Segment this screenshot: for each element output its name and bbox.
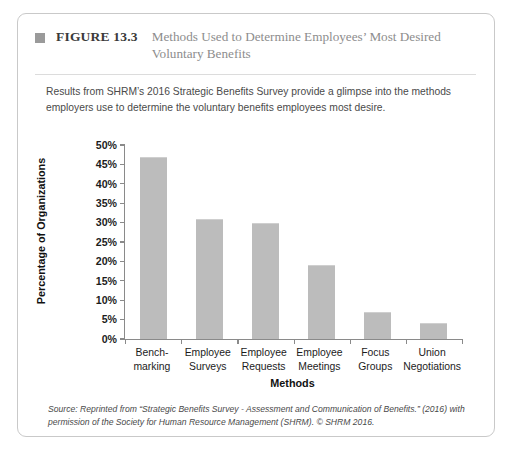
y-axis-tick-mark — [120, 203, 125, 204]
bar-slot — [350, 145, 406, 339]
x-axis-tick-label: EmployeeMeetings — [292, 346, 348, 373]
x-axis-tick-mark — [462, 339, 463, 344]
y-axis-tick-mark — [120, 261, 125, 262]
x-axis-tick-mark — [350, 339, 351, 344]
bar-slot — [181, 145, 237, 339]
figure-card: FIGURE 13.3 Methods Used to Determine Em… — [17, 13, 495, 437]
figure-label: FIGURE 13.3 — [56, 28, 138, 45]
figure-source-note: Source: Reprinted from “Strategic Benefi… — [48, 403, 472, 429]
y-axis-tick-mark — [120, 319, 125, 320]
bar-slot — [406, 145, 462, 339]
y-axis-tick-label: 20% — [96, 256, 117, 267]
x-axis-tick-label: UnionNegotiations — [403, 346, 461, 373]
x-axis-labels: Bench-markingEmployeeSurveysEmployeeRequ… — [124, 346, 461, 373]
y-axis-tick-label: 40% — [96, 179, 117, 190]
figure-subtitle: Results from SHRM’s 2016 Strategic Benef… — [46, 84, 476, 115]
header-divider — [35, 74, 476, 75]
x-axis-tick-label: EmployeeSurveys — [180, 346, 236, 373]
x-axis-tick-label: FocusGroups — [347, 346, 403, 373]
y-axis-tick-label: 35% — [96, 198, 117, 209]
x-axis-tick-label: Bench-marking — [124, 346, 180, 373]
bar — [140, 157, 167, 339]
x-axis-tick-mark — [237, 339, 238, 344]
y-axis-tick-mark — [120, 300, 125, 301]
square-marker-icon — [35, 33, 45, 43]
y-axis-tick-mark — [120, 164, 125, 165]
x-axis-title: Methods — [124, 377, 461, 389]
bar — [196, 219, 223, 339]
x-axis-tick-mark — [294, 339, 295, 344]
figure-header: FIGURE 13.3 Methods Used to Determine Em… — [35, 28, 476, 62]
y-axis-tick-label: 0% — [102, 334, 117, 345]
bar — [364, 312, 391, 339]
figure-title: Methods Used to Determine Employees’ Mos… — [152, 28, 448, 62]
x-axis-tick-mark — [181, 339, 182, 344]
bar — [252, 223, 279, 339]
y-axis-tick-label: 45% — [96, 159, 117, 170]
bar — [308, 265, 335, 339]
y-axis-tick-mark — [120, 280, 125, 281]
y-axis-tick-label: 30% — [96, 217, 117, 228]
y-axis-tick-mark — [120, 241, 125, 242]
x-axis-tick-label: EmployeeRequests — [236, 346, 292, 373]
y-axis-tick-label: 5% — [102, 314, 117, 325]
bar-slot — [125, 145, 181, 339]
bar — [420, 323, 447, 339]
y-axis-tick-mark — [120, 144, 125, 145]
y-axis-tick-mark — [120, 222, 125, 223]
x-axis-tick-mark — [125, 339, 126, 344]
x-axis-tick-mark — [406, 339, 407, 344]
bars-container — [125, 145, 462, 339]
plot-area: 0%5%10%15%20%25%30%35%40%45%50% — [124, 145, 462, 340]
y-axis-tick-mark — [120, 183, 125, 184]
y-axis-tick-label: 50% — [96, 140, 117, 151]
bar-slot — [294, 145, 350, 339]
bar-slot — [237, 145, 293, 339]
y-axis-tick-label: 15% — [96, 276, 117, 287]
bar-chart: Percentage of Organizations 0%5%10%15%20… — [38, 134, 478, 396]
y-axis-tick-label: 25% — [96, 237, 117, 248]
y-axis-tick-label: 10% — [96, 295, 117, 306]
y-axis-title: Percentage of Organizations — [31, 134, 51, 328]
